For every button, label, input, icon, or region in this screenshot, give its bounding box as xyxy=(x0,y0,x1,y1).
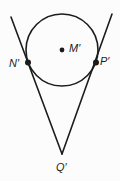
right-tangent-point-dot xyxy=(93,60,99,66)
center-point-dot xyxy=(60,48,65,53)
geometry-diagram-svg: M′ N′ P′ Q′ xyxy=(0,0,120,181)
left-tangent-point-dot xyxy=(25,60,31,66)
left-tangent-point-label: N′ xyxy=(9,57,20,69)
right-tangent-line xyxy=(62,14,112,154)
center-point-label: M′ xyxy=(69,42,81,54)
tangent-circle-figure: M′ N′ P′ Q′ xyxy=(0,0,120,181)
external-point-label: Q′ xyxy=(56,161,68,173)
right-tangent-point-label: P′ xyxy=(100,55,110,67)
